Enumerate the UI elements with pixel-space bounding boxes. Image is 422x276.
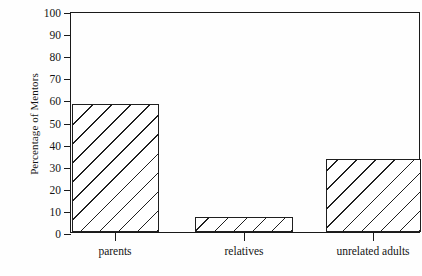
bar-relatives [195,217,293,232]
y-tick-mark [64,101,71,102]
y-tick-mark [64,124,71,125]
bar-chart: Percentage of Mentors 010203040506070809… [0,0,422,276]
y-tick-label: 100 [44,7,61,19]
y-tick-mark [64,168,71,169]
x-tick-mark [115,232,116,241]
bar-parents [72,104,159,232]
x-tick-mark [244,232,245,241]
y-tick-mark [64,212,71,213]
bar-unrelated-adults [326,159,421,232]
x-tick-label: unrelated adults [336,245,409,257]
plot-area: 0102030405060708090100 parentsrelativesu… [70,12,420,233]
x-tick-label: relatives [225,245,264,257]
y-tick-mark [64,146,71,147]
y-tick-label: 40 [50,140,62,152]
y-tick-mark [64,79,71,80]
x-tick-label: parents [98,245,131,257]
y-axis-label: Percentage of Mentors [28,24,40,224]
y-tick-label: 0 [55,228,61,240]
y-tick-mark [64,13,71,14]
y-tick-label: 80 [50,51,62,63]
y-tick-label: 50 [50,118,62,130]
y-tick-label: 70 [50,73,62,85]
y-tick-label: 90 [50,29,62,41]
x-tick-mark [373,232,374,241]
y-tick-label: 20 [50,184,62,196]
y-tick-mark [64,35,71,36]
y-tick-mark [64,57,71,58]
y-tick-label: 10 [50,206,62,218]
y-tick-label: 60 [50,95,62,107]
y-tick-mark [64,234,71,235]
y-tick-label: 30 [50,162,62,174]
y-tick-mark [64,190,71,191]
